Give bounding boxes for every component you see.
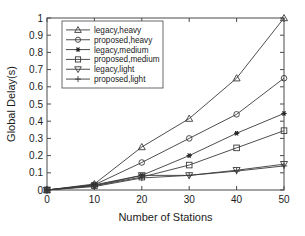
x-tick-label: 10 — [89, 194, 101, 205]
x-tick-label: 50 — [278, 194, 290, 205]
y-tick-label: 0.5 — [29, 99, 43, 110]
chart-container: 00.10.20.30.40.50.60.70.80.9101020304050… — [0, 0, 305, 236]
y-tick-label: 1 — [37, 13, 43, 24]
y-tick-label: 0.2 — [29, 150, 43, 161]
y-tick-label: 0.7 — [29, 64, 43, 75]
legend-label: proposed,light — [94, 75, 146, 84]
y-tick-label: 0.8 — [29, 47, 43, 58]
legend-label: legacy,medium — [94, 46, 149, 55]
y-tick-label: 0.6 — [29, 81, 43, 92]
x-tick-label: 40 — [231, 194, 243, 205]
line-chart: 00.10.20.30.40.50.60.70.80.9101020304050… — [0, 0, 305, 236]
y-tick-label: 0.4 — [29, 116, 43, 127]
y-axis-title: Global Delay(s) — [5, 66, 17, 142]
legend-label: proposed,heavy — [94, 36, 153, 45]
legend: legacy,heavyproposed,heavylegacy,mediump… — [62, 21, 163, 88]
legend-label: legacy,light — [94, 65, 135, 74]
legend-label: legacy,heavy — [94, 26, 142, 35]
x-axis-title: Number of Stations — [118, 211, 213, 223]
y-tick-label: 0 — [37, 185, 43, 196]
legend-label: proposed,medium — [94, 55, 160, 64]
y-tick-label: 0.1 — [29, 167, 43, 178]
x-tick-label: 0 — [44, 194, 50, 205]
x-tick-label: 20 — [136, 194, 148, 205]
y-tick-label: 0.9 — [29, 30, 43, 41]
y-tick-label: 0.3 — [29, 133, 43, 144]
x-tick-label: 30 — [184, 194, 196, 205]
